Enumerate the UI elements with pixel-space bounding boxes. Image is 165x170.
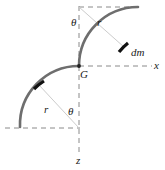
dashed-guides <box>5 6 152 152</box>
upper-arc <box>79 7 138 66</box>
angle-theta-upper-label: θ <box>71 17 76 28</box>
centroid-g-label: G <box>80 69 88 80</box>
angle-theta-lower-label: θ <box>68 106 73 117</box>
z-axis-label: z <box>76 155 80 166</box>
radius-r-upper-label: r <box>97 17 101 28</box>
physics-figure: θ r dm x G r θ z <box>0 0 165 170</box>
figure-canvas <box>0 0 165 170</box>
mass-element-dm-label: dm <box>131 47 144 58</box>
radius-r-lower-label: r <box>44 104 48 115</box>
x-axis-label: x <box>154 60 159 71</box>
